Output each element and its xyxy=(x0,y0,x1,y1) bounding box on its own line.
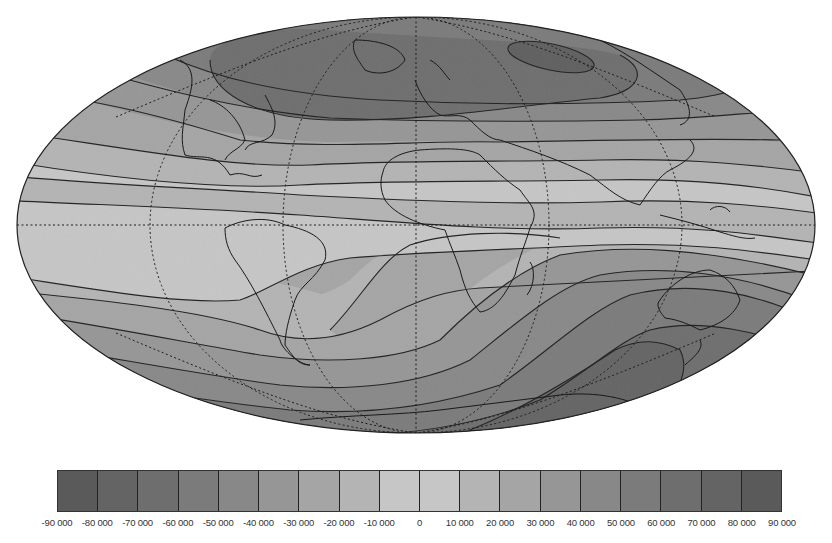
colorbar-bin xyxy=(98,471,138,511)
colorbar-bin xyxy=(460,471,500,511)
colorbar-tick-label: 70 000 xyxy=(688,517,716,528)
colorbar-bin xyxy=(299,471,339,511)
colorbar-bin xyxy=(420,471,460,511)
colorbar-tick-label: -20 000 xyxy=(324,517,355,528)
colorbar-tick-label: -80 000 xyxy=(82,517,113,528)
colorbar-bin xyxy=(742,471,781,511)
colorbar-tick-label: -70 000 xyxy=(122,517,153,528)
colorbar-tick-label: 90 000 xyxy=(768,517,796,528)
colorbar-tick-label: -40 000 xyxy=(243,517,274,528)
colorbar-tick-label: 30 000 xyxy=(526,517,554,528)
colorbar-bin xyxy=(340,471,380,511)
colorbar-tick-label: -60 000 xyxy=(162,517,193,528)
colorbar-bin xyxy=(138,471,178,511)
colorbar-tick-label: 20 000 xyxy=(486,517,514,528)
colorbar-tick-label: 0 xyxy=(417,517,422,528)
colorbar-tick-label: 60 000 xyxy=(647,517,675,528)
world-map xyxy=(0,0,832,450)
colorbar-tick-label: -10 000 xyxy=(364,517,395,528)
colorbar-tick-label: -90 000 xyxy=(42,517,73,528)
colorbar-bin xyxy=(179,471,219,511)
colorbar xyxy=(57,470,782,512)
colorbar-tick-label: 40 000 xyxy=(567,517,595,528)
map-canvas xyxy=(0,0,832,450)
colorbar-tick-label: 50 000 xyxy=(607,517,635,528)
colorbar-tick-label: 10 000 xyxy=(446,517,474,528)
colorbar-bin xyxy=(259,471,299,511)
colorbar-labels: -90 000-80 000-70 000-60 000-50 000-40 0… xyxy=(57,517,782,531)
colorbar-bin xyxy=(380,471,420,511)
colorbar-tick-label: -30 000 xyxy=(283,517,314,528)
colorbar-bin xyxy=(500,471,540,511)
colorbar-bin xyxy=(541,471,581,511)
colorbar-tick-label: 80 000 xyxy=(728,517,756,528)
colorbar-bin xyxy=(58,471,98,511)
colorbar-bin xyxy=(621,471,661,511)
colorbar-bin xyxy=(581,471,621,511)
colorbar-bin xyxy=(661,471,701,511)
colorbar-bin xyxy=(219,471,259,511)
colorbar-tick-label: -50 000 xyxy=(203,517,234,528)
colorbar-bin xyxy=(702,471,742,511)
